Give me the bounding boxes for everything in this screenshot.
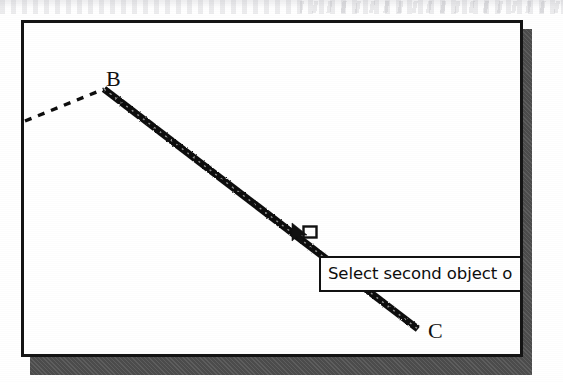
command-prompt-tooltip[interactable]: Select second object o bbox=[319, 256, 523, 292]
vertex-label-c: C bbox=[428, 320, 443, 342]
drawing-geometry bbox=[24, 23, 520, 354]
cad-drawing-window[interactable]: B C Select second object o bbox=[21, 20, 523, 357]
drawing-canvas[interactable] bbox=[24, 23, 520, 354]
selected-line-bc[interactable] bbox=[104, 89, 418, 329]
vertex-label-b: B bbox=[106, 68, 121, 90]
dashed-line-ab[interactable] bbox=[25, 89, 104, 121]
scan-artifact-strip-right bbox=[300, 1, 563, 13]
command-prompt-text: Select second object o bbox=[328, 266, 512, 283]
